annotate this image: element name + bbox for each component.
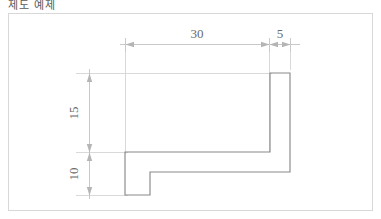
- technical-drawing-svg: 30 5 15 10: [0, 0, 381, 219]
- drawing-canvas: 제도 예제: [0, 0, 381, 219]
- dimension-label-5: 5: [277, 26, 284, 41]
- dimension-label-30: 30: [191, 26, 204, 41]
- drawing-frame: [9, 14, 373, 211]
- dimension-label-15: 15: [66, 107, 81, 120]
- dimension-label-10: 10: [66, 168, 81, 181]
